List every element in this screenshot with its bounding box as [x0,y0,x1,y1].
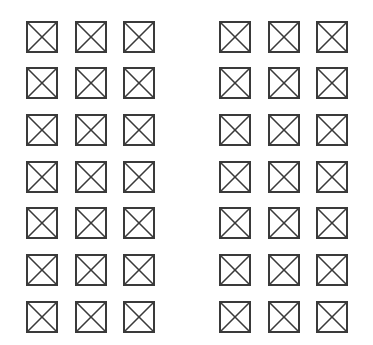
crossed-box-icon [26,301,58,333]
crossed-box-icon [268,67,300,99]
crossed-box-icon [316,161,348,193]
crossed-box-icon [75,254,107,286]
crossed-box-icon [219,21,251,53]
crossed-box-icon [316,21,348,53]
crossed-box-icon [268,207,300,239]
crossed-box-icon [75,114,107,146]
crossed-box-icon [123,301,155,333]
crossed-box-icon [26,67,58,99]
crossed-box-icon [26,254,58,286]
crossed-box-icon [123,161,155,193]
crossed-box-icon [123,207,155,239]
crossed-box-icon [219,254,251,286]
crossed-box-icon [26,21,58,53]
crossed-box-icon [123,21,155,53]
crossed-box-icon [219,301,251,333]
crossed-box-icon [75,207,107,239]
crossed-box-icon [123,67,155,99]
crossed-box-icon [268,161,300,193]
crossed-box-icon [316,207,348,239]
crossed-box-icon [75,21,107,53]
crossed-box-icon [26,114,58,146]
crossed-box-icon [75,161,107,193]
crossed-box-icon [75,301,107,333]
crossed-box-icon [316,301,348,333]
crossed-box-icon [316,67,348,99]
crossed-box-grid [0,0,373,345]
crossed-box-icon [268,114,300,146]
crossed-box-icon [268,21,300,53]
crossed-box-icon [268,254,300,286]
crossed-box-icon [123,254,155,286]
crossed-box-icon [75,67,107,99]
crossed-box-icon [268,301,300,333]
crossed-box-icon [219,207,251,239]
crossed-box-icon [219,161,251,193]
crossed-box-icon [219,114,251,146]
crossed-box-icon [26,207,58,239]
crossed-box-icon [316,254,348,286]
crossed-box-icon [123,114,155,146]
crossed-box-icon [26,161,58,193]
crossed-box-icon [219,67,251,99]
crossed-box-icon [316,114,348,146]
